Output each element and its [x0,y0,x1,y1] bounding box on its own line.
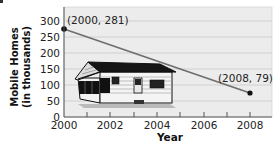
svg-text:2004: 2004 [144,119,171,131]
svg-text:250: 250 [40,31,60,43]
x-tick-labels: 2000 2002 2004 2006 2008 [51,119,264,131]
svg-text:300: 300 [40,15,60,27]
svg-text:150: 150 [40,63,60,75]
annotation-2008: (2008, 79) [218,72,273,84]
svg-text:100: 100 [40,79,60,91]
svg-text:200: 200 [40,47,60,59]
y-axis-title-line1: Mobile Homes [9,27,20,107]
corner-mark [0,0,3,3]
svg-text:2008: 2008 [237,119,264,131]
line-chart: (2000, 281) (2008, 79) 0 50 100 150 200 … [0,0,273,152]
annotation-2000: (2000, 281) [67,14,129,26]
y-axis-title-line2: (in thousands) [21,26,32,108]
x-axis-title: Year [156,131,184,143]
svg-text:2000: 2000 [51,119,78,131]
svg-text:2006: 2006 [191,119,218,131]
mobile-home-illustration [75,62,176,108]
svg-text:2002: 2002 [97,119,124,131]
svg-text:50: 50 [47,95,60,107]
y-tick-labels: 0 50 100 150 200 250 300 [40,15,60,123]
data-point-2008 [247,90,252,95]
